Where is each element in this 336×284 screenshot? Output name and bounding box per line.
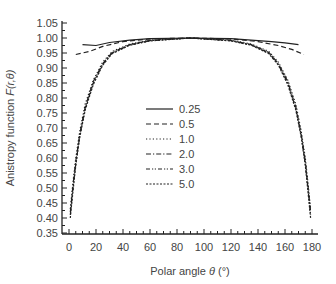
y-tick-label: 0.80 [37, 92, 58, 104]
legend-label: 2.0 [179, 148, 194, 160]
y-tick-label: 0.75 [37, 107, 58, 119]
legend-label: 5.0 [179, 178, 194, 190]
x-axis-label: Polar angle θ (°) [150, 265, 229, 277]
x-tick-label: 40 [117, 241, 129, 253]
legend-label: 0.25 [179, 103, 200, 115]
chart-svg: 0.350.400.450.500.550.600.650.700.750.80… [0, 0, 336, 284]
legend-label: 3.0 [179, 163, 194, 175]
legend-label: 0.5 [179, 118, 194, 130]
x-tick-label: 100 [195, 241, 213, 253]
x-tick-label: 180 [303, 241, 321, 253]
y-tick-label: 0.90 [37, 62, 58, 74]
y-tick-label: 0.40 [37, 212, 58, 224]
x-tick-label: 80 [171, 241, 183, 253]
x-tick-label: 140 [249, 241, 267, 253]
y-tick-label: 0.45 [37, 197, 58, 209]
curve-r-0.25 [83, 38, 299, 46]
x-tick-label: 120 [222, 241, 240, 253]
x-tick-label: 0 [66, 241, 72, 253]
y-tick-label: 0.65 [37, 137, 58, 149]
legend: 0.250.51.02.03.05.0 [146, 103, 200, 190]
x-tick-label: 60 [144, 241, 156, 253]
y-tick-label: 0.95 [37, 47, 58, 59]
y-tick-label: 0.60 [37, 152, 58, 164]
x-tick-label: 20 [90, 241, 102, 253]
y-tick-label: 0.55 [37, 167, 58, 179]
legend-label: 1.0 [179, 133, 194, 145]
y-tick-label: 0.85 [37, 77, 58, 89]
y-tick-label: 0.35 [37, 227, 58, 239]
y-tick-label: 0.50 [37, 182, 58, 194]
y-tick-label: 0.70 [37, 122, 58, 134]
anisotropy-chart: 0.350.400.450.500.550.600.650.700.750.80… [0, 0, 336, 284]
x-tick-label: 160 [276, 241, 294, 253]
y-tick-label: 1.00 [37, 32, 58, 44]
y-tick-label: 1.05 [37, 17, 58, 29]
y-axis-label: Anistropy function F(r,θ) [4, 69, 16, 186]
